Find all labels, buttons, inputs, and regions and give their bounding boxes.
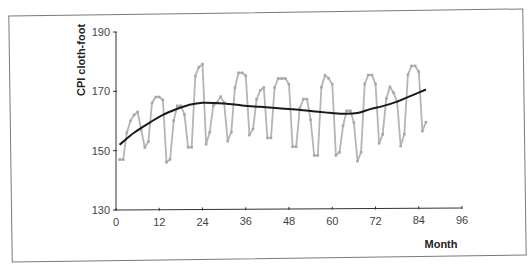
data-point-marker: [169, 158, 172, 161]
data-point-marker: [230, 131, 233, 134]
data-point-marker: [201, 63, 204, 66]
data-point-marker: [241, 72, 244, 75]
data-point-marker: [345, 109, 348, 112]
data-point-marker: [410, 65, 413, 68]
data-point-marker: [324, 74, 327, 77]
data-point-marker: [266, 137, 269, 140]
x-tick-label: 12: [153, 216, 165, 228]
x-axis-title: Month: [425, 238, 458, 250]
data-point-marker: [313, 154, 316, 157]
data-point-marker: [255, 98, 258, 101]
data-point-marker: [381, 133, 384, 136]
data-point-marker: [219, 95, 222, 98]
line-chart: 130150170190 01224364860728496 CPI cloth…: [0, 0, 532, 268]
data-point-marker: [190, 146, 193, 149]
y-tick-label: 170: [92, 85, 110, 97]
data-point-marker: [136, 111, 139, 114]
data-point-marker: [425, 121, 428, 124]
data-point-marker: [194, 75, 197, 78]
data-point-marker: [335, 154, 338, 157]
data-point-marker: [273, 86, 276, 89]
data-point-marker: [407, 74, 410, 77]
data-point-marker: [353, 121, 356, 124]
data-point-marker: [208, 131, 211, 134]
data-point-marker: [187, 146, 190, 149]
y-tick-label: 190: [92, 26, 110, 38]
x-tick-label: 72: [369, 215, 381, 227]
x-tick-label: 60: [326, 215, 338, 227]
data-point-marker: [270, 137, 273, 140]
x-tick-label: 96: [456, 214, 468, 226]
data-point-marker: [151, 102, 154, 105]
data-point-marker: [284, 77, 287, 80]
data-point-marker: [133, 114, 136, 117]
data-point-marker: [363, 83, 366, 86]
data-point-marker: [244, 74, 247, 77]
data-point-marker: [165, 161, 168, 164]
data-point-marker: [248, 134, 251, 137]
data-point-marker: [234, 86, 237, 89]
data-point-marker: [417, 70, 420, 73]
data-point-marker: [360, 151, 363, 154]
data-point-marker: [122, 158, 125, 161]
data-point-marker: [371, 74, 374, 77]
data-point-marker: [259, 89, 262, 92]
data-point-marker: [385, 97, 388, 100]
data-point-marker: [306, 98, 309, 101]
data-point-marker: [389, 85, 392, 88]
data-point-marker: [331, 83, 334, 86]
data-point-marker: [252, 128, 255, 131]
data-point-marker: [367, 74, 370, 77]
data-point-marker: [342, 124, 345, 127]
data-point-marker: [158, 96, 161, 99]
data-point-marker: [338, 151, 341, 154]
data-point-marker: [262, 86, 265, 89]
x-tick-label: 48: [283, 215, 295, 227]
data-point-marker: [205, 143, 208, 146]
data-point-marker: [392, 91, 395, 94]
data-point-marker: [280, 77, 283, 80]
data-point-marker: [421, 130, 424, 133]
x-tick-label: 36: [240, 215, 252, 227]
data-point-marker: [154, 96, 157, 99]
x-tick-label: 84: [413, 214, 425, 226]
y-tick-label: 130: [92, 204, 110, 216]
data-point-marker: [309, 119, 312, 122]
y-tick-label: 150: [92, 145, 110, 157]
data-point-marker: [302, 98, 305, 101]
data-point-marker: [317, 154, 320, 157]
data-point-marker: [295, 145, 298, 148]
data-point-marker: [349, 109, 352, 112]
data-point-marker: [356, 160, 359, 163]
data-point-marker: [378, 142, 381, 145]
data-point-marker: [176, 105, 179, 108]
data-point-marker: [288, 83, 291, 86]
data-point-marker: [237, 72, 240, 75]
data-point-marker: [118, 158, 121, 161]
data-point-marker: [212, 104, 215, 107]
data-point-marker: [399, 145, 402, 148]
data-point-marker: [144, 146, 147, 149]
x-tick-label: 0: [113, 216, 119, 228]
data-point-marker: [126, 132, 129, 135]
data-point-marker: [277, 77, 280, 80]
data-point-marker: [129, 120, 132, 123]
data-point-marker: [403, 133, 406, 136]
data-point-marker: [198, 66, 201, 69]
series-layer: [118, 63, 427, 164]
data-point-marker: [226, 140, 229, 143]
data-point-marker: [374, 83, 377, 86]
data-point-marker: [162, 99, 165, 102]
data-point-marker: [172, 119, 175, 122]
data-point-marker: [291, 145, 294, 148]
data-point-marker: [414, 65, 417, 68]
data-point-marker: [147, 140, 150, 143]
data-point-marker: [327, 77, 330, 80]
x-tick-label: 24: [196, 216, 208, 228]
y-ticks: 130150170190: [92, 26, 117, 216]
data-point-marker: [183, 113, 186, 116]
y-axis-title: CPI cloth-foot: [75, 24, 87, 96]
data-point-marker: [320, 86, 323, 89]
